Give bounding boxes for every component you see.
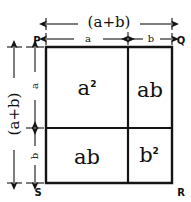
cell-term-bottom-left: ab [74, 147, 100, 168]
cell-term-base: a [78, 76, 91, 100]
cell-term-base: ab [74, 145, 100, 169]
cell-term-base: b [139, 143, 152, 167]
corner-label-r: R [177, 188, 185, 198]
top-segment-a-label: a [84, 34, 92, 44]
left-split-dimension [26, 47, 44, 183]
corner-label-p: P [33, 36, 40, 46]
corner-label-s: S [34, 188, 41, 198]
left-segment-a-label: a [30, 82, 40, 90]
cell-term-top-right: ab [137, 80, 163, 101]
left-segment-b-label: b [30, 152, 40, 160]
cell-term-top-left: a2 [78, 78, 97, 99]
cell-term-exponent: 2 [153, 146, 159, 156]
figure-canvas: (a+b) a b (a+b) a b P Q R S a2 ab ab b2 [0, 0, 191, 202]
cell-term-exponent: 2 [90, 79, 96, 89]
cell-term-base: ab [137, 78, 163, 102]
corner-label-q: Q [177, 36, 186, 46]
top-segment-b-label: b [147, 34, 155, 44]
top-total-dimension-label: (a+b) [87, 15, 132, 30]
left-total-dimension-label: (a+b) [7, 92, 22, 137]
cell-term-bottom-right: b2 [139, 145, 159, 166]
